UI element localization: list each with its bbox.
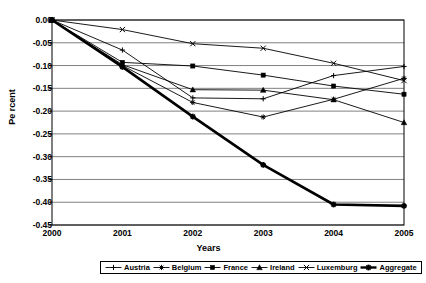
- legend-label: Belgium: [171, 263, 202, 272]
- x-tick-label: 2005: [379, 228, 426, 238]
- x-axis-title: Years: [0, 243, 417, 253]
- square-marker-icon: [204, 263, 221, 272]
- x-tick-label: 2001: [97, 228, 147, 238]
- x-tick-label: 2004: [309, 228, 359, 238]
- chart-legend: AustriaBelgiumFranceIrelandLuxemburgAggr…: [100, 261, 422, 274]
- series-france: [50, 18, 406, 96]
- y-tick-label: 0.00: [12, 16, 52, 24]
- legend-item-ireland: Ireland: [250, 263, 296, 272]
- legend-label: Ireland: [269, 263, 295, 272]
- triangle-marker-icon: [251, 263, 268, 272]
- y-tick-label: -0.15: [12, 84, 52, 92]
- legend-label: France: [222, 263, 248, 272]
- legend-label: Luxemburg: [316, 263, 358, 272]
- x-axis-tick-labels: 200020012002200320042005: [0, 228, 417, 242]
- y-tick-label: -0.20: [12, 107, 52, 115]
- legend-item-belgium: Belgium: [152, 263, 203, 272]
- x-tick-label: 2002: [168, 228, 218, 238]
- gridlines: [52, 20, 404, 225]
- cross-marker-icon: [298, 263, 315, 272]
- y-tick-label: -0.40: [12, 198, 52, 206]
- bold-asterisk-marker-icon: [360, 263, 377, 272]
- plot-frame: [52, 20, 404, 225]
- y-tick-label: -0.35: [12, 175, 52, 183]
- legend-label: Austria: [123, 263, 150, 272]
- legend-label: Aggregate: [378, 263, 416, 272]
- y-tick-label: -0.05: [12, 39, 52, 47]
- x-tick-label: 2000: [27, 228, 77, 238]
- legend-item-aggregate: Aggregate: [359, 263, 417, 272]
- asterisk-marker-icon: [153, 263, 170, 272]
- x-tick-label: 2003: [238, 228, 288, 238]
- series-belgium: [49, 17, 406, 119]
- plus-marker-icon: [105, 263, 122, 272]
- legend-item-luxemburg: Luxemburg: [297, 263, 359, 272]
- legend-item-france: France: [203, 263, 249, 272]
- y-tick-label: -0.30: [12, 153, 52, 161]
- y-tick-label: -0.25: [12, 130, 52, 138]
- y-tick-label: -0.10: [12, 62, 52, 70]
- legend-item-austria: Austria: [104, 263, 151, 272]
